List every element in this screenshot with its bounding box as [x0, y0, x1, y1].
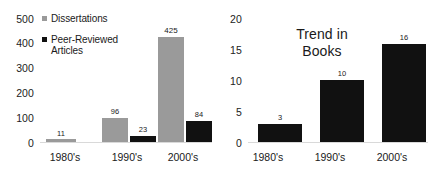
x-axis-line: [40, 142, 212, 143]
bar-books-1990s: [320, 80, 364, 142]
x-label-2000s: 2000's: [152, 152, 214, 163]
bar-label-books-2000s: 16: [382, 34, 426, 42]
y-tick-300: 300: [0, 63, 34, 73]
y-tick-0: 0: [208, 138, 242, 148]
y-tick-10: 10: [208, 76, 242, 86]
bar-label-books-1980s: 3: [258, 114, 302, 122]
chart-dissertations-articles: 500 400 300 200 100 0 Dissertations Peer…: [0, 0, 216, 175]
bar-dissertations-2000s: [158, 37, 184, 142]
x-label-2000s: 2000's: [352, 152, 432, 163]
bar-dissertations-1990s: [102, 118, 128, 142]
y-tick-100: 100: [0, 113, 34, 123]
chart-trend-in-books: 20 15 10 5 0 Trend in Books 3 10 16 1980…: [216, 0, 432, 175]
y-tick-0: 0: [0, 138, 34, 148]
x-label-1980s: 1980's: [34, 152, 96, 163]
bar-dissertations-1980s: [46, 139, 76, 142]
two-bar-charts-figure: 500 400 300 200 100 0 Dissertations Peer…: [0, 0, 432, 175]
y-tick-15: 15: [208, 45, 242, 55]
plot-area-left: 11 96 23 425 84: [40, 19, 212, 142]
bar-label-dissertations-2000s: 425: [156, 27, 186, 35]
x-label-1990s: 1990's: [96, 152, 158, 163]
y-tick-200: 200: [0, 88, 34, 98]
bar-peer-reviewed-1990s: [130, 136, 156, 142]
bar-label-books-1990s: 10: [320, 70, 364, 78]
bar-books-1980s: [258, 124, 302, 142]
bar-label-dissertations-1980s: 11: [46, 130, 76, 138]
y-tick-20: 20: [208, 14, 242, 24]
bar-books-2000s: [382, 44, 426, 142]
plot-area-right: 3 10 16: [248, 19, 428, 142]
bar-label-peer-reviewed-1990s: 23: [130, 126, 156, 134]
x-axis-line: [248, 142, 428, 143]
bar-label-dissertations-1990s: 96: [102, 108, 128, 116]
y-tick-500: 500: [0, 14, 34, 24]
y-tick-5: 5: [208, 107, 242, 117]
y-tick-400: 400: [0, 38, 34, 48]
